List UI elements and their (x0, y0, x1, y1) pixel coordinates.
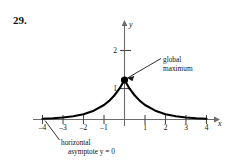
x-axis-label: x (218, 119, 222, 128)
graph-plot (0, 0, 242, 162)
x-tick-label-2: 2 (159, 123, 173, 132)
problem-number: 29. (13, 14, 27, 26)
x-tick-label-4: 4 (200, 123, 214, 132)
horizontal-asymptote-annotation: horizontal asymptote y = 0 (61, 138, 115, 156)
x-tick-label-1: 1 (138, 123, 152, 132)
horizontal-asymptote-annotation-line1: horizontal (61, 138, 91, 147)
horizontal-asymptote-annotation-line2: asymptote y = 0 (61, 147, 115, 156)
y-tick-label-2: 2 (108, 46, 122, 55)
figure-container: 29. (0, 0, 242, 162)
global-maximum-annotation-line2: maximum (163, 64, 193, 73)
x-tick-label-neg4: –4 (36, 123, 50, 132)
global-maximum-annotation: global maximum (163, 55, 193, 73)
global-maximum-annotation-line1: global (163, 55, 181, 64)
y-axis-arrowhead (122, 20, 128, 26)
global-maximum-leader-line (128, 59, 162, 79)
y-tick-label-1: 1 (108, 84, 122, 93)
global-maximum-arrowhead (127, 76, 134, 81)
x-tick-label-neg3: –3 (56, 123, 70, 132)
x-tick-label-neg2: –2 (77, 123, 91, 132)
x-tick-label-3: 3 (179, 123, 193, 132)
x-tick-label-neg1: –1 (97, 123, 111, 132)
y-axis-label: y (129, 20, 133, 29)
